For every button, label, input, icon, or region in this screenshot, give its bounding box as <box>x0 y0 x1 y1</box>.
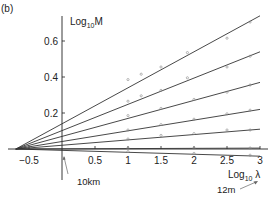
data-point-marker <box>186 77 188 79</box>
arrow-12m <box>240 182 256 189</box>
arrowhead-10km-icon <box>63 156 66 160</box>
series-line <box>16 52 260 149</box>
y-tick-label: 0.6 <box>44 36 58 47</box>
data-point-marker <box>140 95 142 97</box>
x-tick-label: 2 <box>191 155 197 166</box>
series-line <box>16 149 260 156</box>
x-tick-label: −0.5 <box>19 155 39 166</box>
data-point-marker <box>160 66 162 68</box>
x-tick-label: 1.5 <box>154 155 168 166</box>
annotation-12m: 12m <box>217 181 258 195</box>
x-tick-label: 0.5 <box>88 155 102 166</box>
annotation-12m-label: 12m <box>217 184 236 195</box>
x-tick-label: 3 <box>257 155 263 166</box>
data-point-marker <box>127 100 129 102</box>
y-tick-label: 0.4 <box>44 72 58 83</box>
y-tick-label: 0.2 <box>44 108 58 119</box>
x-tick-label: 2.5 <box>220 155 234 166</box>
annotation-10km-label: 10km <box>77 176 100 187</box>
data-point-marker <box>186 52 188 54</box>
data-point-marker <box>226 129 228 131</box>
x-tick-label: 1 <box>125 155 131 166</box>
x-axis-label: Log10 λ <box>228 169 260 182</box>
data-point-marker <box>160 134 162 136</box>
panel-label: (b) <box>1 3 13 14</box>
y-axis-label: Log10M <box>70 16 103 29</box>
chart: (b) 0.20.40.6 −0.50.511.522.53 Log10M Lo… <box>0 0 273 199</box>
data-point-marker <box>127 79 129 81</box>
data-point-marker <box>140 73 142 75</box>
data-point-marker <box>226 66 228 68</box>
data-point-marker <box>127 115 129 117</box>
data-point-marker <box>226 37 228 39</box>
series-markers <box>127 21 251 156</box>
